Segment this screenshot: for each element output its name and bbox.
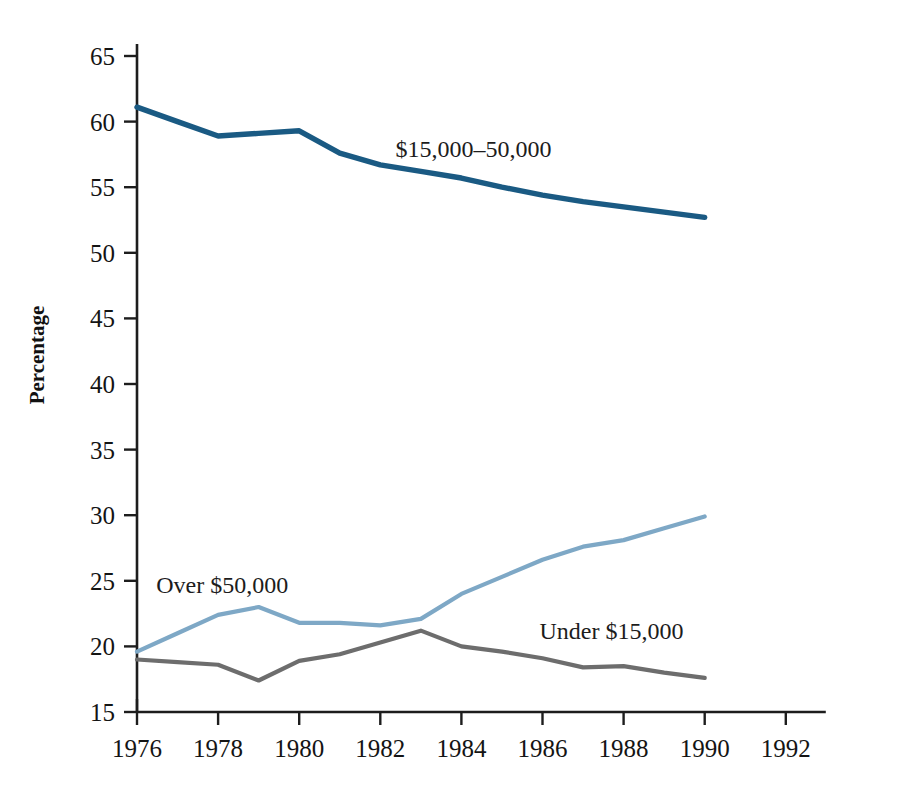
y-tick-label: 60: [90, 109, 115, 136]
x-axis-ticks: 197619781980198219841986198819901992: [112, 699, 811, 762]
series-label: Over $50,000: [156, 572, 288, 598]
x-tick-label: 1984: [436, 735, 487, 762]
y-tick-label: 15: [90, 699, 115, 726]
y-tick-label: 45: [90, 305, 115, 332]
series-line: [137, 107, 705, 217]
x-tick-label: 1978: [193, 735, 243, 762]
series-label: Under $15,000: [539, 618, 683, 644]
y-tick-label: 55: [90, 174, 115, 201]
y-tick-label: 35: [90, 437, 115, 464]
y-tick-label: 30: [90, 502, 115, 529]
y-tick-label: 20: [90, 633, 115, 660]
x-tick-label: 1990: [680, 735, 730, 762]
x-tick-label: 1980: [274, 735, 324, 762]
x-tick-label: 1982: [355, 735, 405, 762]
y-axis-ticks: 1520253035404550556065: [90, 43, 137, 726]
chart-page: 1520253035404550556065 19761978198019821…: [0, 0, 899, 788]
series-labels: $15,000–50,000Over $50,000Under $15,000: [156, 136, 683, 644]
line-chart: 1520253035404550556065 19761978198019821…: [0, 0, 899, 788]
y-axis-title: Percentage: [25, 306, 49, 405]
y-tick-label: 40: [90, 371, 115, 398]
x-tick-label: 1988: [599, 735, 649, 762]
y-tick-label: 25: [90, 568, 115, 595]
x-axis-group: 197619781980198219841986198819901992: [112, 699, 826, 762]
y-tick-label: 65: [90, 43, 115, 70]
y-axis-group: 1520253035404550556065: [90, 43, 137, 726]
series-label: $15,000–50,000: [396, 136, 552, 162]
y-tick-label: 50: [90, 240, 115, 267]
x-tick-label: 1986: [518, 735, 568, 762]
x-tick-label: 1992: [761, 735, 811, 762]
x-tick-label: 1976: [112, 735, 162, 762]
